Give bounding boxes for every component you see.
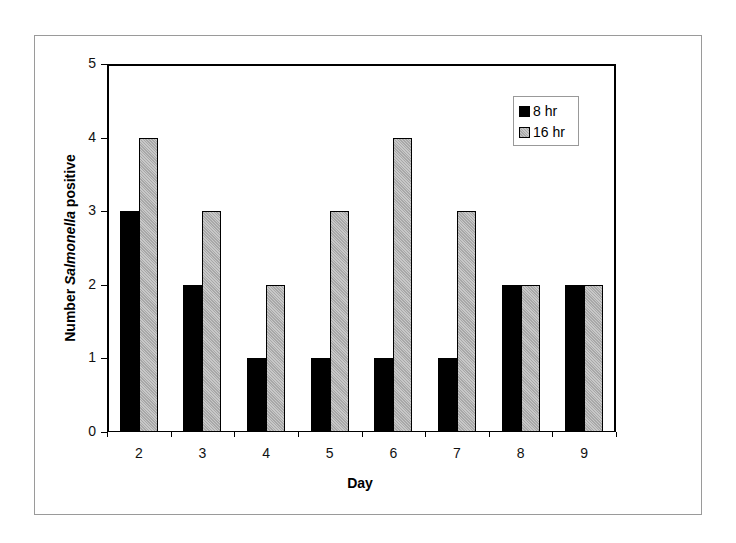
bar-16hr-day-8: [521, 285, 540, 432]
legend-swatch-8hr: [519, 106, 530, 117]
x-tick: [107, 432, 108, 437]
x-tick: [171, 432, 172, 437]
bar-16hr-day-3: [202, 211, 221, 432]
bar-8hr-day-3: [183, 285, 202, 432]
bar-8hr-day-2: [120, 211, 139, 432]
bar-8hr-day-8: [502, 285, 521, 432]
bar-8hr-day-4: [247, 358, 266, 432]
bar-16hr-day-9: [584, 285, 603, 432]
y-tick-label: 4: [80, 129, 96, 145]
x-tick-label: 5: [315, 445, 345, 461]
y-tick-label: 5: [80, 55, 96, 71]
bar-16hr-day-5: [330, 211, 349, 432]
x-tick-label: 2: [124, 445, 154, 461]
y-axis-title: Number Salmonella positive: [62, 138, 78, 358]
x-tick: [362, 432, 363, 437]
y-tick: [101, 64, 107, 65]
y-tick: [101, 138, 107, 139]
x-tick-label: 6: [378, 445, 408, 461]
legend-swatch-16hr: [519, 127, 530, 138]
y-tick: [101, 211, 107, 212]
y-tick-label: 0: [80, 423, 96, 439]
y-tick-label: 2: [80, 276, 96, 292]
bar-8hr-day-7: [438, 358, 457, 432]
x-tick: [552, 432, 553, 437]
bar-16hr-day-4: [266, 285, 285, 432]
x-tick: [234, 432, 235, 437]
x-tick-label: 9: [569, 445, 599, 461]
x-axis-title: Day: [330, 475, 390, 491]
y-tick-label: 1: [80, 349, 96, 365]
x-tick: [298, 432, 299, 437]
y-tick: [101, 285, 107, 286]
x-tick: [616, 432, 617, 437]
x-tick: [425, 432, 426, 437]
legend: 8 hr 16 hr: [513, 96, 579, 146]
bar-16hr-day-2: [139, 138, 158, 432]
legend-label-16hr: 16 hr: [533, 124, 565, 140]
legend-item-16hr: 16 hr: [519, 124, 565, 140]
bar-8hr-day-6: [374, 358, 393, 432]
x-tick-label: 7: [442, 445, 472, 461]
y-tick: [101, 358, 107, 359]
legend-item-8hr: 8 hr: [519, 103, 557, 119]
bar-8hr-day-9: [565, 285, 584, 432]
y-tick-label: 3: [80, 202, 96, 218]
bar-8hr-day-5: [311, 358, 330, 432]
bar-16hr-day-6: [393, 138, 412, 432]
x-tick: [489, 432, 490, 437]
bar-16hr-day-7: [457, 211, 476, 432]
x-tick-label: 4: [251, 445, 281, 461]
x-tick-label: 8: [506, 445, 536, 461]
legend-label-8hr: 8 hr: [533, 103, 557, 119]
x-tick-label: 3: [187, 445, 217, 461]
